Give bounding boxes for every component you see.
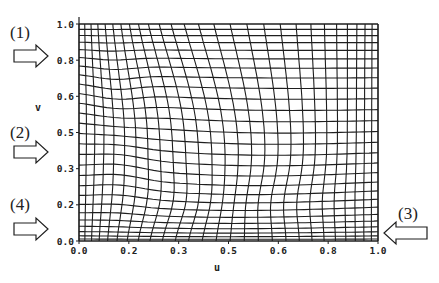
mesh-column-line bbox=[91, 24, 95, 241]
arrow-right-icon bbox=[14, 218, 48, 240]
x-tick-label: 0.5 bbox=[220, 245, 237, 256]
figure: 0.00.20.30.50.60.81.0 0.00.20.30.50.60.8… bbox=[0, 0, 439, 283]
mesh-grid bbox=[79, 24, 378, 241]
mesh-column-line bbox=[280, 24, 291, 241]
mesh-row-line bbox=[79, 195, 378, 203]
callout-label-1: (1) bbox=[10, 23, 30, 42]
mesh-plot: 0.00.20.30.50.60.81.0 0.00.20.30.50.60.8… bbox=[0, 0, 439, 283]
arrow-right-icon bbox=[14, 45, 48, 67]
mesh-row-line bbox=[79, 58, 378, 61]
y-tick-label: 0.6 bbox=[57, 91, 74, 102]
mesh-column-line bbox=[364, 24, 365, 241]
arrow-right-icon bbox=[14, 141, 48, 163]
mesh-column-line bbox=[171, 24, 200, 241]
y-tick-label: 0.0 bbox=[57, 236, 74, 247]
x-axis-ticks: 0.00.20.30.50.60.81.0 bbox=[70, 241, 386, 256]
y-axis-ticks: 0.00.20.30.50.60.81.0 bbox=[57, 19, 79, 247]
mesh-row-line bbox=[79, 213, 378, 218]
y-tick-label: 0.8 bbox=[57, 55, 74, 66]
mesh-row-line bbox=[79, 94, 378, 100]
mesh-row-line bbox=[79, 133, 378, 144]
mesh-column-line bbox=[113, 24, 125, 241]
y-tick-label: 0.2 bbox=[57, 199, 74, 210]
x-axis-title: u bbox=[214, 262, 220, 273]
x-tick-label: 0.2 bbox=[120, 245, 137, 256]
mesh-row-line bbox=[79, 204, 378, 210]
mesh-column-line bbox=[371, 24, 372, 241]
x-tick-label: 0.8 bbox=[320, 245, 337, 256]
arrow-left-icon bbox=[384, 222, 427, 244]
y-tick-label: 0.5 bbox=[57, 127, 74, 138]
mesh-column-line bbox=[85, 24, 87, 241]
y-tick-label: 1.0 bbox=[57, 19, 74, 30]
mesh-row-line bbox=[79, 226, 378, 228]
callout-label-4: (4) bbox=[10, 195, 30, 214]
mesh-row-line bbox=[79, 154, 378, 166]
mesh-column-line bbox=[105, 24, 114, 241]
mesh-row-line bbox=[79, 75, 378, 80]
mesh-row-line bbox=[79, 50, 378, 52]
callout-label-2: (2) bbox=[10, 123, 30, 142]
x-tick-label: 1.0 bbox=[369, 245, 386, 256]
mesh-row-line bbox=[79, 103, 378, 110]
y-axis-title: v bbox=[35, 102, 41, 113]
mesh-row-line bbox=[79, 236, 378, 237]
mesh-row-line bbox=[79, 232, 378, 234]
mesh-row-line bbox=[79, 84, 378, 89]
x-tick-label: 0.3 bbox=[170, 245, 187, 256]
mesh-row-line bbox=[79, 66, 378, 70]
mesh-column-line bbox=[121, 24, 136, 241]
x-tick-label: 0.6 bbox=[270, 245, 287, 256]
callout-label-3: (3) bbox=[398, 204, 418, 223]
mesh-column-line bbox=[98, 24, 104, 241]
mesh-row-line bbox=[79, 144, 378, 156]
y-tick-label: 0.3 bbox=[57, 163, 74, 174]
x-tick-label: 0.0 bbox=[70, 245, 87, 256]
mesh-row-line bbox=[79, 220, 378, 224]
